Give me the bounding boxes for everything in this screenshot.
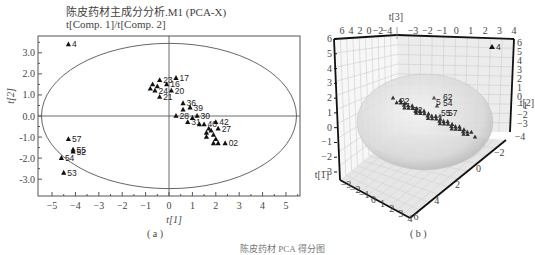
z-left-tick-label: −2 <box>321 151 332 162</box>
t1-axis-label: t[1] <box>315 169 329 180</box>
data-point-label: 52 <box>413 105 423 115</box>
top-left-tick-label: 0 <box>367 25 372 36</box>
data-point-label: 22 <box>400 96 410 106</box>
data-point-label: 54 <box>443 98 453 108</box>
top-right-tick-label: 3 <box>497 25 502 36</box>
z-left-tick-label: 6 <box>327 33 332 44</box>
t3-axis-label: t[3] <box>389 11 403 22</box>
floor-right-tick-label: 0 <box>476 163 481 174</box>
top-left-tick-label: 2 <box>358 25 363 36</box>
z-left-tick-label: 5 <box>327 48 332 59</box>
z-left-tick-label: 3 <box>327 77 332 88</box>
floor-left-tick-label: 0 <box>371 194 376 205</box>
z-right-tick-label: 6 <box>517 37 522 48</box>
floor-right-tick-label: 6 <box>414 211 419 222</box>
t2-axis-label: t[2] <box>520 97 534 108</box>
floor-left-tick-label: 4 <box>408 213 413 224</box>
floor-left-tick-label: 1 <box>380 198 385 209</box>
top-right-tick-label: 1 <box>468 25 473 36</box>
floor-right-tick-label: −4 <box>515 131 526 142</box>
z-left-tick-label: 0 <box>327 122 332 133</box>
panel-a-caption: ( a ) <box>147 228 163 239</box>
data-point-label: 5 <box>436 97 441 107</box>
top-right-tick-label: −1 <box>437 25 448 36</box>
data-point-label: 57 <box>448 108 458 118</box>
floor-left-tick-label: 3 <box>398 208 403 219</box>
floor-right-tick-label: 2 <box>455 179 460 190</box>
z-left-tick-label: 4 <box>327 63 332 74</box>
floor-left-tick-label: −1 <box>359 189 370 200</box>
top-left-tick-label: 4 <box>349 25 354 36</box>
top-right-tick-label: 2 <box>483 25 488 36</box>
z-left-tick-label: 1 <box>327 107 332 118</box>
floor-right-tick-label: 4 <box>434 195 439 206</box>
floor-right-tick-label: −2 <box>494 147 505 158</box>
confidence-ellipsoid <box>357 74 493 170</box>
top-right-tick-label: −3 <box>408 25 419 36</box>
panel-b-caption: ( b ) <box>410 228 427 239</box>
data-point-label: 4 <box>496 42 501 52</box>
top-right-tick-label: −2 <box>422 25 433 36</box>
floor-left-tick-label: 2 <box>389 203 394 214</box>
figure-caption: 陈皮药材 PCA 得分图 <box>240 242 325 255</box>
z-left-tick-label: −1 <box>321 136 332 147</box>
top-right-tick-label: 4 <box>512 25 517 36</box>
top-right-tick-label: 0 <box>454 25 459 36</box>
top-left-tick-label: 6 <box>340 25 345 36</box>
top-left-tick-label: −4 <box>382 25 393 36</box>
z-left-tick-label: 2 <box>327 92 332 103</box>
